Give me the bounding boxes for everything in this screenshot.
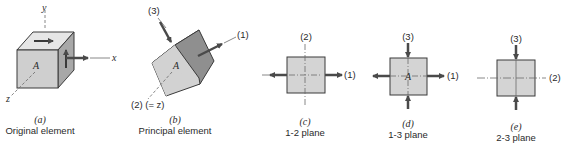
- panel-d-1-3-plane: (3) A (1) (d) 1-3 plane: [373, 31, 459, 140]
- point-a-label: A: [32, 60, 40, 71]
- axis-2-label: (2): [549, 72, 561, 83]
- axis-1-label: (1): [447, 70, 459, 81]
- principal-axis-3-label: (3): [148, 5, 160, 16]
- z-axis-label: z: [5, 93, 10, 104]
- y-axis-label: y: [41, 2, 47, 13]
- panel-c-1-2-plane: (2) (1) (c) 1-2 plane: [262, 31, 356, 138]
- principal-axis-1-label: (1): [237, 29, 249, 40]
- panel-e-2-3-plane: (3) (2) (e) 2-3 plane: [477, 33, 561, 143]
- point-a-label: A: [404, 71, 412, 82]
- axis-2-label: (2): [300, 31, 312, 42]
- panel-a-caption: Original element: [5, 125, 75, 136]
- panel-c-caption: 1-2 plane: [285, 127, 325, 138]
- panel-b-caption: Principal element: [139, 125, 212, 136]
- point-a-label: A: [172, 60, 180, 71]
- axis-1-label: (1): [344, 69, 356, 80]
- stress-element-figure: y x A z (a) Original element (3): [0, 0, 569, 150]
- x-axis-label: x: [111, 52, 117, 63]
- principal-axis-2-label: (2) (= z): [131, 99, 165, 110]
- panel-e-caption: 2-3 plane: [496, 132, 536, 143]
- panel-d-caption: 1-3 plane: [388, 129, 428, 140]
- axis-3-label: (3): [510, 33, 522, 44]
- principal-stress-arrow-3: [160, 22, 171, 42]
- panel-a-original-element: y x A z (a) Original element: [5, 2, 117, 136]
- axis-3-label: (3): [402, 31, 414, 42]
- panel-b-principal-element: (3) (1) A (2) (= z) (b) Principal elemen…: [131, 5, 249, 136]
- axis-1-line: [224, 37, 236, 43]
